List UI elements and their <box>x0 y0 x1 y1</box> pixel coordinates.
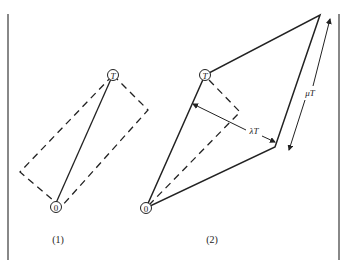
node-origin-label: 0 <box>144 204 149 214</box>
panel-2-caption: (2) <box>206 234 218 246</box>
lambda-arrow-left <box>193 104 246 130</box>
lambda-label: λT <box>249 126 260 136</box>
mu-label: μT <box>304 88 316 98</box>
mu-arrow-down <box>289 100 305 150</box>
node-origin-label: 0 <box>54 203 59 213</box>
segment-0-T <box>56 79 111 203</box>
parallelogram <box>146 15 320 208</box>
panel-1-caption: (1) <box>52 234 64 246</box>
panel-1: T 0 (1) <box>20 70 148 247</box>
panel-2: λT μT T 0 (2) <box>141 15 331 246</box>
lambda-arrow-right <box>262 136 275 142</box>
diagram-canvas: T 0 (1) λT μT T 0 (2) <box>0 0 349 260</box>
